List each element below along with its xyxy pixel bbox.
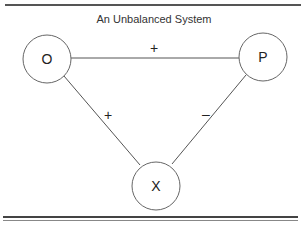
node-o-label: O: [23, 35, 71, 83]
edge-p-x-sign: –: [199, 107, 213, 121]
edge-o-p-sign: +: [147, 41, 161, 55]
node-x-label: X: [132, 162, 180, 210]
bottom-rule-thin: [3, 220, 298, 221]
node-p-label: P: [239, 33, 287, 81]
edge-o-x-sign: +: [101, 108, 115, 122]
bottom-rule-thick: [3, 216, 298, 218]
